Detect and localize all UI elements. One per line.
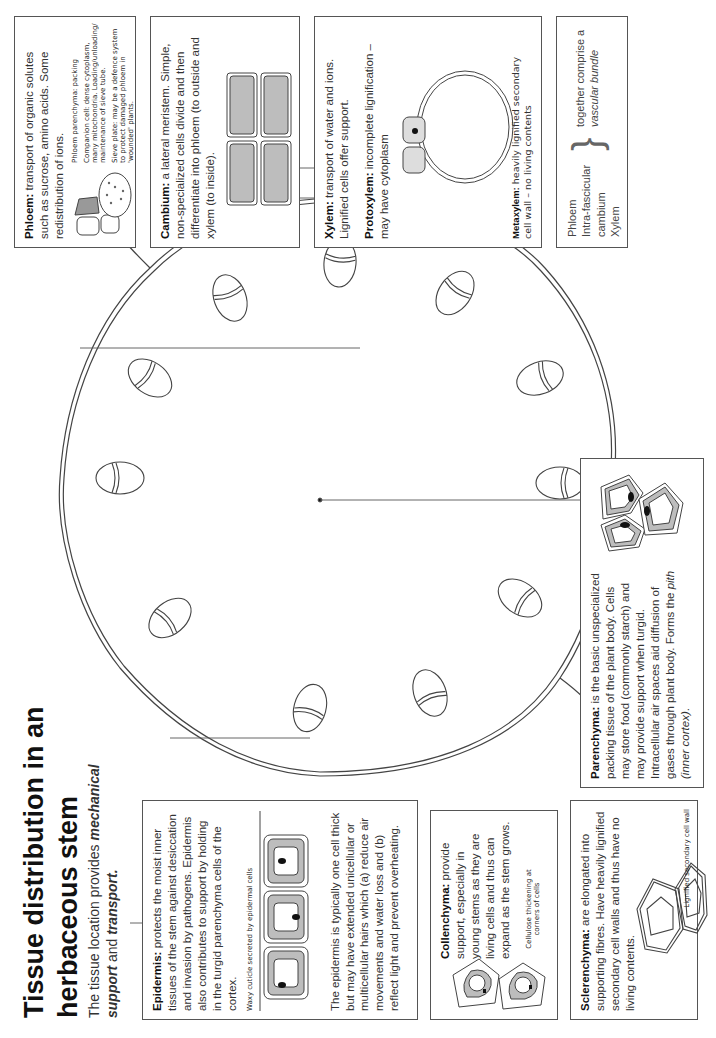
collenchyma-heading: Collenchyma: xyxy=(439,884,451,959)
parenchyma-cells-illustration xyxy=(595,469,685,559)
lignified-wall-caption: Lignified secondary cell wall xyxy=(683,809,691,908)
vascular-bundle-summary-box: Phloem Intra-fascicular cambium Xylem } … xyxy=(556,16,628,248)
epidermis-heading: Epidermis: xyxy=(151,952,163,1011)
waxy-cuticle-caption: Waxy cuticle secreted by epidermal cells xyxy=(246,809,254,1011)
sieve-plate-label: Sieve plate: may be a defence system to … xyxy=(111,23,135,163)
epidermis-detail-text: The epidermis is typically one cell thic… xyxy=(328,809,403,1011)
xylem-cells-illustration xyxy=(401,47,521,207)
collenchyma-info-box: Collenchyma: provide support, especially… xyxy=(430,810,558,1020)
parenchyma-text: is the basic unspecialized packing tissu… xyxy=(589,573,676,779)
phloem-info-box: Phloem: transport of organic solutes suc… xyxy=(14,16,136,248)
sclerenchyma-heading: Sclerenchyma: xyxy=(579,929,591,1011)
sclerenchyma-description: Sclerenchyma: are elongated into support… xyxy=(578,809,638,1011)
vascular-bundle-text: together comprise a vascular bundle xyxy=(573,30,602,127)
xylem-heading: Xylem: xyxy=(323,201,335,239)
parenchyma-description: Parenchyma: is the basic unspecialized p… xyxy=(588,569,693,779)
protoxylem-description: Protoxylem: incomplete lignification – m… xyxy=(362,25,392,239)
component-cambium: cambium xyxy=(594,165,608,237)
curly-brace-icon: } xyxy=(567,138,607,151)
phloem-cells-illustration xyxy=(71,169,131,239)
epidermis-info-box: Epidermis: protects the moist inner tiss… xyxy=(142,800,418,1020)
cambium-cells-illustration xyxy=(225,67,295,207)
epidermis-description: Epidermis: protects the moist inner tiss… xyxy=(150,809,240,1011)
phloem-parenchyma-label: Phloem parenchyma: packing xyxy=(71,23,79,163)
vascular-bundle-emphasis: vascular bundle xyxy=(588,50,600,127)
sclerenchyma-cells-illustration xyxy=(635,859,705,959)
component-xylem: Xylem xyxy=(608,165,622,237)
companion-cell-label: Companion cell: dense cytoplasm, many mi… xyxy=(83,23,107,163)
epidermal-cells-illustration xyxy=(256,811,316,1011)
vascular-bundle-components: Phloem Intra-fascicular cambium Xylem xyxy=(565,165,622,237)
component-intra-fascicular: Intra-fascicular xyxy=(579,165,593,237)
xylem-description: Xylem: transport of water and ions. Lign… xyxy=(322,25,352,239)
epidermis-text: protects the moist inner tissues of the … xyxy=(151,814,238,1011)
metaxylem-heading: Metaxylem: xyxy=(510,187,521,239)
sclerenchyma-info-box: Sclerenchyma: are elongated into support… xyxy=(570,800,698,1020)
cambium-heading: Cambium: xyxy=(159,183,171,239)
cambium-description: Cambium: a lateral meristem. Simple, non… xyxy=(158,25,218,239)
protoxylem-heading: Protoxylem: xyxy=(363,173,375,239)
parenchyma-heading: Parenchyma: xyxy=(589,707,601,779)
component-phloem: Phloem xyxy=(565,165,579,237)
parenchyma-info-box: Parenchyma: is the basic unspecialized p… xyxy=(580,458,704,788)
metaxylem-description: Metaxylem: heavily lignified secondary c… xyxy=(510,39,533,239)
cellulose-thickening-caption: Cellulose thickening at corners of cells xyxy=(525,869,541,949)
phloem-description: Phloem: transport of organic solutes suc… xyxy=(22,25,67,239)
xylem-info-box: Xylem: transport of water and ions. Lign… xyxy=(314,16,542,248)
cambium-info-box: Cambium: a lateral meristem. Simple, non… xyxy=(150,16,300,248)
together-comprise-text: together comprise a xyxy=(573,30,587,127)
collenchyma-cells-illustration xyxy=(449,955,549,1015)
vascular-bundles xyxy=(96,238,584,736)
parenchyma-text-end: . xyxy=(679,708,691,711)
worksheet-page: Tissue distribution in an herbaceous ste… xyxy=(0,0,716,1038)
phloem-heading: Phloem: xyxy=(23,194,35,239)
